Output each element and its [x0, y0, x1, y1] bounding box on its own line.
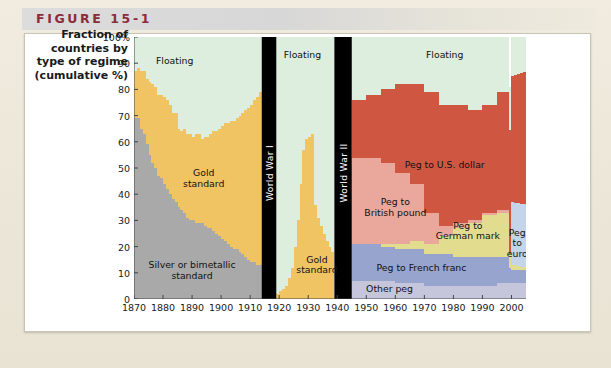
- y-tick-label: 100%: [96, 32, 130, 43]
- y-tick-label: 40: [96, 189, 130, 200]
- x-tick-label: 2000: [499, 302, 523, 313]
- x-tick-label: 1880: [151, 302, 175, 313]
- x-tick-label: 1990: [470, 302, 494, 313]
- y-tick-label: 10: [96, 268, 130, 279]
- x-axis-tick-labels: 1870188018901900191019201930194019501960…: [134, 302, 526, 316]
- x-tick-label: 1960: [383, 302, 407, 313]
- x-tick-label: 1900: [209, 302, 233, 313]
- y-tick-label: 30: [96, 215, 130, 226]
- x-tick-label: 1870: [122, 302, 146, 313]
- y-tick-label: 90: [96, 58, 130, 69]
- x-tick-label: 1940: [325, 302, 349, 313]
- x-tick-label: 1980: [441, 302, 465, 313]
- y-tick-label: 70: [96, 111, 130, 122]
- x-tick-label: 1970: [412, 302, 436, 313]
- figure-page: FIGURE 15-1 Fraction of countries by typ…: [0, 0, 611, 368]
- y-axis-tick-labels: 0102030405060708090100%: [92, 37, 130, 299]
- stacked-area-chart: FloatingGold standardSilver or bimetalli…: [134, 37, 526, 299]
- chart-canvas: [134, 37, 526, 299]
- figure-label: FIGURE 15-1: [36, 11, 152, 26]
- y-tick-label: 60: [96, 137, 130, 148]
- x-tick-label: 1950: [354, 302, 378, 313]
- x-tick-label: 1930: [296, 302, 320, 313]
- x-tick-label: 1910: [238, 302, 262, 313]
- war-band-label-1: World War I: [264, 145, 275, 201]
- y-tick-label: 50: [96, 163, 130, 174]
- x-tick-label: 1920: [267, 302, 291, 313]
- bottom-caption: [30, 350, 570, 364]
- war-band-label-2: World War II: [338, 144, 349, 203]
- y-tick-label: 20: [96, 242, 130, 253]
- x-tick-label: 1890: [180, 302, 204, 313]
- chart-svg: [134, 37, 526, 299]
- y-tick-label: 80: [96, 84, 130, 95]
